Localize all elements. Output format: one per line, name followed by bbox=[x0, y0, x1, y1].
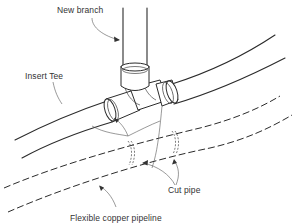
pipe-tee-diagram bbox=[0, 0, 292, 224]
branch-pipe bbox=[123, 8, 147, 66]
cut-pipe-marks bbox=[128, 131, 179, 165]
flexible-copper-pipeline-dashed bbox=[4, 96, 292, 212]
flexible-copper-pipeline-label: Flexible copper pipeline bbox=[70, 214, 162, 223]
new-branch-label: New branch bbox=[57, 6, 103, 15]
cut-pipe-label: Cut pipe bbox=[168, 186, 200, 195]
insert-tee-fitting bbox=[102, 63, 181, 122]
insert-tee-label: Insert Tee bbox=[25, 72, 63, 81]
